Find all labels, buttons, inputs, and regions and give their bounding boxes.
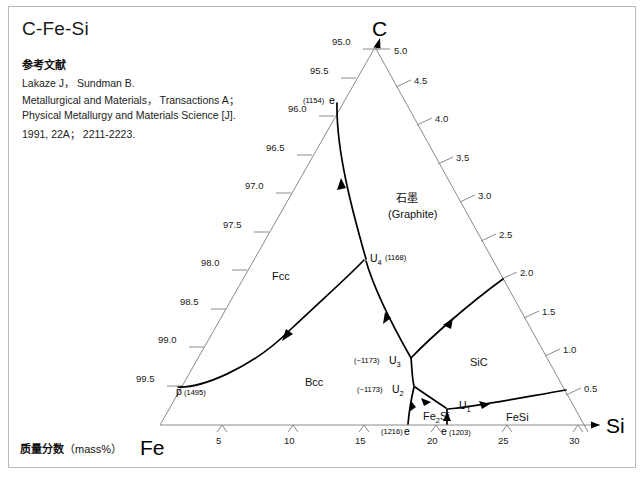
right-tick-label-0-5: 0.5 [584,383,597,394]
left-tick-label-98-0: 98.0 [201,257,220,268]
bottom-tick-label-30: 30 [569,435,580,446]
u2-sub: 2 [400,389,404,398]
u3-letter: U [389,354,397,366]
right-tick-label-1-0: 1.0 [563,344,576,355]
arrow-fesi-u1 [479,401,490,409]
point-temp-p1495: (1495) [184,388,206,397]
bottom-tick-label-20: 20 [427,435,438,446]
u4-letter: U [370,252,378,264]
right-tick-label-5-0: 5.0 [394,45,407,56]
right-tick-label-3-0: 3.0 [478,190,491,201]
apex-label-c: C [372,17,387,40]
bottom-tick-label-5: 5 [216,435,221,446]
bottom-axis-arrow [591,422,600,429]
right-tick-label-1-5: 1.5 [542,306,555,317]
boundary-u2-u1 [415,387,446,408]
bottom-tick-label-25: 25 [498,435,509,446]
left-tick-label-99-5: 99.5 [136,373,155,384]
left-axis-line [160,42,378,425]
left-tick-label-98-5: 98.5 [180,296,199,307]
u1-letter: U [459,399,467,411]
phase-label-graphite-cjk: 石墨 [396,192,418,205]
right-tick-label-3-5: 3.5 [456,152,469,163]
left-tick-label-95-5: 95.5 [310,65,329,76]
point-label-u4: U4 [370,252,382,267]
boundary-u4-u3 [366,261,411,358]
phase-label-fesi: FeSi [506,411,529,423]
boundary-u3-u2 [411,358,414,386]
point-temp-u3: (~1173) [354,356,380,365]
right-ticks: 5.0 4.5 4.0 3.5 3.0 2.5 2.0 1.5 1.0 0.5 [375,45,597,395]
diagram-page: C-Fe-Si 参考文献 Lakaze J， Sundman B. Metall… [0,0,644,481]
right-tick-label-4-0: 4.0 [435,113,448,124]
right-tick-label-2-5: 2.5 [499,229,512,240]
left-tick-label-99-0: 99.0 [158,334,177,345]
u1-sub: 1 [467,405,471,414]
right-axis-line [375,47,588,432]
point-label-e1203: e [441,425,447,437]
fe2si-main: Fe [423,410,436,422]
left-tick-label-96-5: 96.5 [266,142,285,153]
phase-label-graphite-en: (Graphite) [388,208,438,220]
point-temp-u2: (~1173) [357,385,383,394]
point-label-e1216: e [404,425,410,437]
boundary-u3-sic-graphite [411,279,503,358]
bottom-tick-label-10: 10 [284,435,295,446]
arrow-e1154-u4 [337,178,346,190]
point-temp-e1216: (1216) [381,427,403,436]
point-label-u1: U1 [459,399,471,414]
point-label-u3: U3 [389,354,401,369]
point-label-u2: U2 [392,383,404,398]
apex-label-si: Si [606,414,625,437]
u4-sub: 4 [378,258,382,267]
fe2si-tail: Si [440,410,450,422]
left-tick-label-97-5: 97.5 [223,219,242,230]
phase-label-fcc: Fcc [272,270,290,282]
phase-label-bcc: Bcc [305,376,324,388]
u3-sub: 3 [397,360,401,369]
bottom-tick-label-15: 15 [355,435,366,446]
point-label-p1495: p [176,385,182,397]
right-tick-label-4-5: 4.5 [414,75,427,86]
point-temp-e1154: (1154) [303,96,325,105]
left-tick-label-95-0: 95.0 [332,36,351,47]
u2-letter: U [392,383,400,395]
point-temp-u4: (1168) [385,253,407,262]
point-label-e1154: e [329,94,335,106]
phase-label-fe2si: Fe2Si [423,410,450,425]
arrow-u2-u1 [421,398,431,406]
right-tick-label-2-0: 2.0 [520,267,533,278]
left-tick-label-97-0: 97.0 [245,180,264,191]
ternary-diagram: 5 10 15 20 25 30 99.5 99.0 98.5 [0,0,644,481]
boundary-p1495-u4 [178,260,364,387]
phase-label-sic: SiC [470,356,488,368]
apex-label-fe: Fe [140,436,165,459]
point-temp-e1203: (1203) [449,428,471,437]
left-ticks: 99.5 99.0 98.5 98.0 97.5 97.0 96.5 96.0 … [136,36,378,386]
